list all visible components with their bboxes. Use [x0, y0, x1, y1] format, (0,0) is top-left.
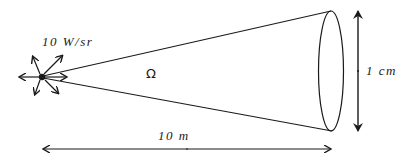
- distance-label: 10 m: [158, 128, 190, 143]
- solid-angle-label: Ω: [146, 66, 156, 81]
- solid-angle-diagram: 10 W/sr Ω 1 cm 10 m: [0, 0, 409, 162]
- cone: [43, 11, 344, 131]
- aperture-ellipse: [319, 11, 344, 131]
- point-source: [20, 56, 66, 94]
- intensity-label: 10 W/sr: [42, 34, 93, 49]
- ray-arrow-down-right: [45, 80, 58, 93]
- ray-arrow-down-left: [35, 80, 40, 94]
- diameter-label: 1 cm: [366, 63, 397, 78]
- ray-arrow-up-left: [33, 57, 40, 74]
- ray-arrow-up-right: [44, 56, 62, 74]
- cone-lower-edge: [43, 78, 332, 131]
